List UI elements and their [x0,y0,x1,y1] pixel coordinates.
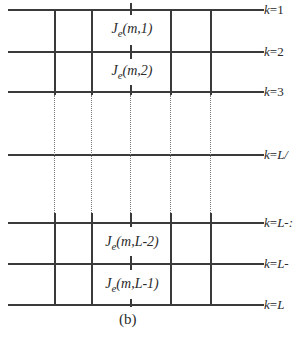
center-tick-k1 [130,3,132,15]
column-dotted-2 [91,95,93,213]
cell-label-m1: Je(m,1) [100,21,164,41]
column-dotted-5 [210,95,212,213]
row-line-k-L [8,304,264,306]
center-tick-k-L-1 [130,256,132,270]
row-line-k-L-1 [8,263,264,265]
column-dotted-1 [54,95,56,213]
column-line-4-top [170,9,172,95]
row-label-k-L-1: k=L- [264,257,289,271]
row-line-k-L-2 [8,222,264,224]
row-label-k-L-2: k=L-: [264,216,293,230]
column-line-2-bottom [91,213,93,306]
row-line-k-half [8,154,264,156]
row-label-k3: k=3 [264,85,284,99]
row-label-k2: k=2 [264,45,284,59]
row-label-k1: k=1 [264,3,284,17]
column-line-4-bottom [170,213,172,306]
cell-label-mL-2: Je(m,L-2) [95,234,169,254]
center-tick-k3 [130,85,132,95]
row-label-k-L: k=L [264,298,284,312]
column-line-5-bottom [210,213,212,306]
row-line-k2 [8,51,264,53]
column-line-2-top [91,9,93,95]
row-line-k3 [8,91,264,93]
figure-caption: (b) [119,311,137,328]
column-dotted-4 [170,95,172,213]
column-line-1-top [54,9,56,95]
cell-label-mL-1: Je(m,L-1) [95,276,169,296]
column-line-5-top [210,9,212,95]
row-line-k1 [8,9,264,11]
cell-label-m2: Je(m,2) [100,63,164,83]
center-tick-k2 [130,45,132,59]
row-label-k-half: k=L/ [264,148,288,162]
grid-diagram: k=1 k=2 k=3 k=L/ k=L-: k=L- k=L Je(m,1) … [0,0,296,337]
column-line-1-bottom [54,213,56,306]
center-tick-k-L [130,299,132,307]
column-dotted-3 [130,95,132,213]
center-tick-k-L-2 [130,213,132,227]
